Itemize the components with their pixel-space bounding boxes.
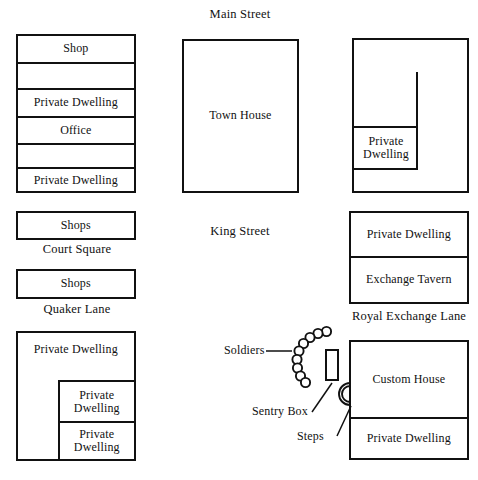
annotation-label-sentry-box: Sentry Box xyxy=(252,405,308,418)
inset-room-bottom-wall xyxy=(354,168,418,170)
room-private-dwelling-southwest-top: Private Dwelling xyxy=(18,335,134,363)
block-southwest-building: Private Dwelling Private Dwelling Privat… xyxy=(16,331,136,461)
inset-room-right-wall xyxy=(416,126,418,170)
room-private-dwelling-exchange: Private Dwelling xyxy=(351,213,467,256)
street-label-quaker-lane: Quaker Lane xyxy=(18,303,136,317)
soldier-marker xyxy=(301,378,310,387)
room-label-line-2: Dwelling xyxy=(74,402,120,415)
soldier-marker xyxy=(322,327,331,336)
room-private-dwelling-southwest-bot: Private Dwelling xyxy=(60,423,134,458)
block-town-house: Town House xyxy=(182,39,299,193)
soldier-marker xyxy=(305,333,314,342)
soldier-marker xyxy=(299,339,308,348)
street-label-king-street: King Street xyxy=(180,225,300,239)
soldier-marker xyxy=(293,363,302,372)
room-private-dwelling-southwest-mid: Private Dwelling xyxy=(60,382,134,421)
room-label-line-1: Private xyxy=(79,428,114,441)
room-private-dwelling-lower: Private Dwelling xyxy=(18,170,134,191)
annotation-label-steps: Steps xyxy=(297,430,324,443)
room-unlabeled-2 xyxy=(18,145,134,167)
street-label-court-square: Court Square xyxy=(18,243,136,257)
room-town-house: Town House xyxy=(184,41,297,191)
room-shops-quaker-lane: Shops xyxy=(18,271,134,297)
room-unlabeled-1 xyxy=(18,64,134,88)
room-private-dwelling-upper: Private Dwelling xyxy=(18,90,134,116)
room-private-dwelling-inset: Private Dwelling xyxy=(356,128,416,168)
block-custom-house-building: Custom House Private Dwelling xyxy=(349,340,469,460)
room-label-line-2: Dwelling xyxy=(74,441,120,454)
room-exchange-tavern: Exchange Tavern xyxy=(351,258,467,301)
soldier-marker xyxy=(292,355,301,364)
block-court-square-shops: Shops xyxy=(16,211,136,240)
room-custom-house: Custom House xyxy=(351,342,467,417)
block-northeast-building: Private Dwelling xyxy=(352,38,469,193)
interior-wall-stub xyxy=(416,72,418,128)
room-label-line: Private Dwelling xyxy=(356,135,416,161)
street-label-main-street: Main Street xyxy=(180,8,300,22)
leader-line-sentry-box xyxy=(312,383,332,412)
room-shop: Shop xyxy=(18,36,134,62)
soldier-marker xyxy=(296,371,305,380)
block-northwest-row-building: Shop Private Dwelling Office Private Dwe… xyxy=(16,34,136,193)
room-private-dwelling-custom-house: Private Dwelling xyxy=(351,419,467,457)
block-quaker-lane-shops: Shops xyxy=(16,269,136,299)
room-label-line-1: Private xyxy=(79,389,114,402)
room-shops-court-square: Shops xyxy=(18,213,134,238)
block-exchange-building: Private Dwelling Exchange Tavern xyxy=(349,211,469,304)
boston-massacre-site-map: Main Street King Street Court Square Qua… xyxy=(0,0,478,480)
soldier-marker xyxy=(313,329,322,338)
annotation-label-soldiers: Soldiers xyxy=(224,344,265,357)
street-label-royal-exchange-lane: Royal Exchange Lane xyxy=(340,310,478,324)
room-office: Office xyxy=(18,118,134,143)
soldier-marker xyxy=(294,346,303,355)
sentry-box-marker xyxy=(325,349,339,381)
